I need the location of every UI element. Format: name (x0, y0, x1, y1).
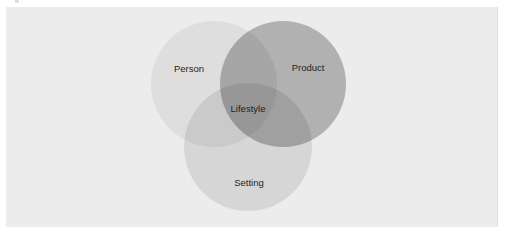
venn-diagram: Person Product Lifestyle Setting (0, 0, 505, 231)
product-circle (220, 21, 346, 147)
lifestyle-label: Lifestyle (231, 103, 266, 114)
setting-label: Setting (234, 177, 264, 188)
person-label: Person (174, 63, 204, 74)
product-label: Product (292, 62, 325, 73)
